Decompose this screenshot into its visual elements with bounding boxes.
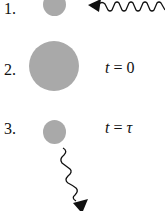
arrowhead-left-icon	[88, 0, 101, 12]
photon-layer	[0, 0, 165, 211]
outgoing-photon-icon	[61, 148, 88, 211]
incoming-photon-icon	[88, 0, 165, 12]
